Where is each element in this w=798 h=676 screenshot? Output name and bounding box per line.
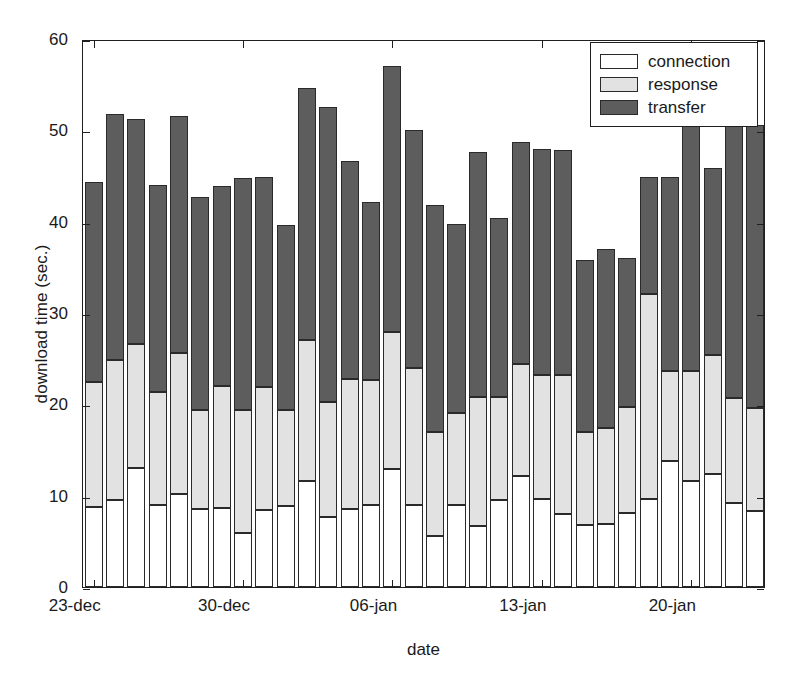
bar-segment-transfer (597, 249, 615, 428)
x-tick-label: 23-dec (15, 596, 135, 616)
bar-segment-response (725, 398, 743, 503)
bar-segment-transfer (85, 182, 103, 382)
bar-segment-connection (640, 499, 658, 587)
stacked-bar (554, 150, 572, 587)
x-tick-mark (542, 580, 543, 587)
x-axis-label: date (82, 640, 765, 660)
bar-segment-connection (746, 511, 764, 587)
stacked-bar (191, 197, 209, 587)
bar-segment-connection (298, 481, 316, 587)
bar-segment-transfer (661, 177, 679, 372)
x-tick-mark-top (392, 41, 393, 48)
bar-segment-transfer (255, 177, 273, 387)
bar-segment-response (618, 407, 636, 513)
bar-segment-transfer (106, 114, 124, 360)
stacked-bar (234, 178, 252, 587)
bar-segment-response (298, 340, 316, 481)
stacked-bar (469, 152, 487, 587)
legend-swatch-response (600, 77, 638, 92)
stacked-bar (512, 142, 530, 587)
y-tick-mark-right (757, 41, 764, 42)
stacked-bar (704, 168, 722, 587)
bar-segment-transfer (298, 88, 316, 340)
stacked-bar (725, 125, 743, 587)
bar-segment-response (85, 382, 103, 506)
y-tick-mark (83, 132, 90, 133)
bar-segment-transfer (213, 186, 231, 386)
bar-segment-response (490, 397, 508, 500)
y-tick-mark-right (757, 132, 764, 133)
bar-segment-transfer (234, 178, 252, 410)
stacked-bar (127, 119, 145, 587)
bar-segment-transfer (490, 218, 508, 397)
bar-segment-connection (661, 461, 679, 587)
bar-segment-transfer (576, 260, 594, 432)
stacked-bar (640, 177, 658, 587)
stacked-bar (213, 186, 231, 587)
bar-segment-response (127, 344, 145, 468)
stacked-bar (383, 66, 401, 588)
y-tick-label: 40 (28, 214, 68, 231)
y-tick-mark (83, 315, 90, 316)
x-tick-mark-top (94, 41, 95, 48)
stacked-bar (597, 249, 615, 587)
legend-swatch-connection (600, 54, 638, 69)
bar-segment-response (469, 397, 487, 526)
legend-item-transfer: transfer (600, 96, 748, 119)
stacked-bar (576, 260, 594, 587)
bar-segment-transfer (426, 205, 444, 432)
bar-segment-transfer (191, 197, 209, 410)
bar-segment-response (234, 410, 252, 533)
bar-segment-response (255, 387, 273, 510)
stacked-bar (341, 161, 359, 587)
y-tick-label: 60 (28, 31, 68, 48)
bar-segment-transfer (618, 258, 636, 407)
stacked-bar (319, 107, 337, 587)
y-tick-mark-right (757, 224, 764, 225)
stacked-bar (170, 116, 188, 587)
bar-segment-transfer (704, 168, 722, 355)
bar-segment-connection (597, 524, 615, 587)
bar-segment-transfer (127, 119, 145, 344)
x-tick-label: 20-jan (612, 596, 732, 616)
y-tick-mark-right (757, 406, 764, 407)
bar-segment-connection (725, 503, 743, 587)
bar-segment-transfer (640, 177, 658, 294)
legend-label: connection (648, 53, 730, 70)
stacked-bar (661, 177, 679, 587)
bar-segment-connection (490, 500, 508, 587)
bar-segment-connection (341, 509, 359, 587)
y-tick-mark-right (757, 315, 764, 316)
stacked-bar (426, 205, 444, 587)
bar-segment-response (576, 432, 594, 525)
legend-label: transfer (648, 99, 706, 116)
y-tick-label: 20 (28, 396, 68, 413)
y-tick-label: 0 (28, 579, 68, 596)
bar-segment-connection (234, 533, 252, 587)
y-tick-mark (83, 498, 90, 499)
stacked-bar (405, 130, 423, 587)
bar-segment-connection (469, 526, 487, 587)
stacked-bar (362, 202, 380, 587)
bar-segment-transfer (533, 149, 551, 376)
y-tick-mark (83, 406, 90, 407)
x-tick-mark (243, 580, 244, 587)
x-tick-mark-top (243, 41, 244, 48)
bar-segment-connection (426, 536, 444, 587)
y-tick-mark (83, 589, 90, 590)
stacked-bar (106, 114, 124, 587)
bar-segment-connection (405, 505, 423, 587)
bar-segment-connection (191, 509, 209, 587)
bar-segment-connection (576, 525, 594, 587)
stacked-bar (618, 258, 636, 587)
bar-segment-transfer (447, 224, 465, 413)
bar-segment-transfer (319, 107, 337, 402)
stacked-bar (490, 218, 508, 587)
y-tick-mark (83, 41, 90, 42)
bar-segment-transfer (383, 66, 401, 333)
bar-segment-connection (362, 505, 380, 587)
stacked-bar (447, 224, 465, 588)
bar-segment-response (170, 353, 188, 494)
stacked-bar (682, 76, 700, 587)
legend-swatch-transfer (600, 100, 638, 115)
